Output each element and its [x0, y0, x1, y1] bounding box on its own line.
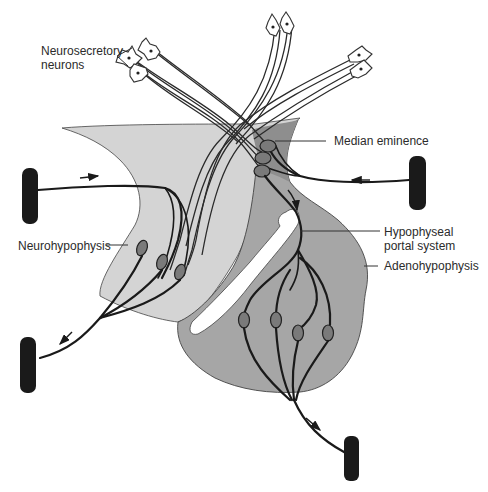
label-neurosecretory-neurons-line2: neurons [41, 58, 84, 72]
neuron-icon [350, 60, 372, 78]
label-hypophyseal-portal-line2: portal system [384, 239, 455, 253]
neuron-icon [130, 64, 148, 82]
vein-lower-left [20, 337, 36, 393]
artery-upper-left [22, 168, 38, 224]
arrow-down-left-icon [60, 332, 72, 344]
label-adenohypophysis: Adenohypophysis [384, 259, 479, 273]
neuron-icon [138, 38, 160, 60]
label-median-eminence: Median eminence [334, 134, 429, 148]
artery-upper-right-branch [270, 150, 409, 182]
artery-upper-right [409, 156, 426, 210]
label-neurosecretory-neurons-line1: Neurosecretory [41, 44, 123, 58]
label-hypophyseal-portal-line1: Hypophyseal [384, 225, 453, 239]
arrow-right-icon [80, 176, 98, 178]
neuron-icon [266, 14, 280, 36]
pituitary-diagram: Neurosecretory neurons Median eminence N… [0, 0, 488, 492]
label-neurohypophysis: Neurohypophysis [18, 239, 111, 253]
neurosecretory-neurons [116, 12, 372, 82]
neuron-icon [280, 12, 294, 34]
vein-lower-right [344, 436, 359, 481]
neuron-icon [348, 46, 372, 62]
